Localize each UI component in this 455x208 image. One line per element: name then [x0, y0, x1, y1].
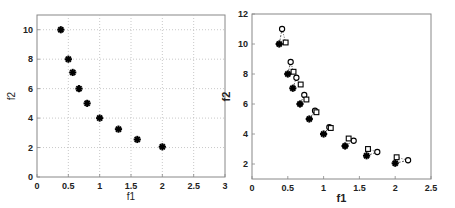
- asterisk-core: [98, 116, 102, 120]
- asterisk-marker: [75, 85, 82, 92]
- asterisk-marker: [84, 100, 91, 107]
- x-tick-label: 2: [393, 183, 398, 193]
- plot-frame: [252, 14, 431, 179]
- square-marker: [298, 82, 303, 87]
- y-tick-label: 4: [243, 129, 248, 139]
- y-tick-label: 2: [28, 143, 33, 153]
- circle-marker: [279, 26, 284, 31]
- circle-marker: [288, 59, 293, 64]
- left-plot: 00.511.522.530246810f1f2: [6, 15, 228, 202]
- x-tick-label: 1.5: [353, 183, 366, 193]
- right-plot: 00.511.522.524681012f1f2: [220, 9, 437, 204]
- y-tick-label: 6: [243, 99, 248, 109]
- y-tick-label: 8: [243, 69, 248, 79]
- y-tick-label: 6: [28, 84, 33, 94]
- square-marker: [394, 155, 399, 160]
- asterisk-marker: [69, 69, 76, 76]
- square-marker: [291, 69, 296, 74]
- square-marker: [304, 97, 309, 102]
- asterisk-marker: [392, 160, 399, 167]
- asterisk-marker: [320, 130, 327, 137]
- square-marker: [328, 126, 333, 131]
- asterisk-marker: [276, 40, 283, 47]
- y-tick-label: 12: [238, 9, 248, 19]
- asterisk-core: [77, 87, 81, 91]
- asterisk-marker: [134, 136, 141, 143]
- x-tick-label: 0: [34, 181, 39, 191]
- asterisk-marker: [341, 142, 348, 149]
- y-axis-label: f2: [220, 92, 232, 102]
- y-tick-label: 10: [238, 39, 248, 49]
- asterisk-core: [365, 154, 369, 158]
- asterisk-marker: [57, 26, 64, 33]
- asterisk-marker: [363, 152, 370, 159]
- asterisk-core: [343, 144, 347, 148]
- x-axis-label: f1: [337, 192, 347, 204]
- asterisk-core: [322, 132, 326, 136]
- square-marker: [366, 147, 371, 152]
- y-tick-label: 0: [28, 172, 33, 182]
- asterisk-core: [135, 138, 139, 142]
- x-tick-label: 0.5: [62, 181, 75, 191]
- x-tick-label: 2.5: [425, 183, 438, 193]
- asterisk-marker: [96, 114, 103, 121]
- asterisk-marker: [296, 100, 303, 107]
- x-tick-label: 1: [321, 183, 326, 193]
- x-tick-label: 0: [249, 183, 254, 193]
- asterisk-core: [277, 42, 281, 46]
- asterisk-marker: [65, 56, 72, 63]
- asterisk-core: [393, 161, 397, 165]
- circle-marker: [375, 149, 380, 154]
- asterisk-core: [117, 127, 121, 131]
- asterisk-core: [85, 102, 89, 106]
- asterisk-core: [71, 71, 75, 75]
- asterisk-core: [286, 72, 290, 76]
- x-tick-label: 2: [160, 181, 165, 191]
- x-tick-label: 1.5: [125, 181, 138, 191]
- figure: 00.511.522.530246810f1f2 00.511.522.5246…: [0, 0, 455, 208]
- asterisk-marker: [289, 85, 296, 92]
- x-tick-label: 3: [222, 181, 227, 191]
- y-tick-label: 4: [28, 113, 33, 123]
- y-tick-label: 10: [23, 25, 33, 35]
- square-marker: [283, 40, 288, 45]
- asterisk-core: [59, 28, 63, 32]
- circle-marker: [294, 75, 299, 80]
- y-tick-label: 8: [28, 54, 33, 64]
- asterisk-core: [161, 145, 165, 149]
- x-tick-label: 1: [97, 181, 102, 191]
- y-axis-label: f2: [6, 91, 17, 100]
- y-tick-label: 2: [243, 159, 248, 169]
- circle-marker: [405, 158, 410, 163]
- circle-marker: [351, 138, 356, 143]
- asterisk-marker: [306, 115, 313, 122]
- asterisk-core: [307, 117, 311, 121]
- x-tick-label: 2.5: [187, 181, 200, 191]
- asterisk-core: [298, 102, 302, 106]
- asterisk-core: [67, 57, 71, 61]
- asterisk-marker: [115, 126, 122, 133]
- asterisk-core: [291, 86, 295, 90]
- x-axis-label: f1: [127, 191, 136, 202]
- square-marker: [346, 136, 351, 141]
- square-marker: [314, 110, 319, 115]
- asterisk-marker: [159, 143, 166, 150]
- x-tick-label: 0.5: [282, 183, 295, 193]
- asterisk-marker: [284, 70, 291, 77]
